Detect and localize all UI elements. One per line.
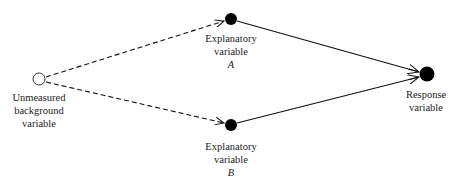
- label-line: variable: [205, 153, 256, 166]
- label-line: background: [12, 104, 65, 117]
- label-explanatory-b: Explanatory variable B: [205, 140, 256, 179]
- label-unmeasured: Unmeasured background variable: [12, 91, 65, 130]
- label-variable-letter: B: [228, 167, 234, 178]
- label-line: Response: [406, 88, 446, 101]
- label-line: Explanatory: [205, 32, 256, 45]
- label-line: variable: [12, 117, 65, 130]
- edge-unmeasured-to-b: [46, 82, 224, 123]
- edge-b-to-response: [237, 77, 419, 123]
- node-explanatory-a: [225, 13, 237, 25]
- label-response: Response variable: [406, 88, 446, 114]
- edge-unmeasured-to-a: [46, 21, 224, 77]
- label-line: Explanatory: [205, 140, 256, 153]
- label-line: variable: [406, 101, 446, 114]
- causal-diagram: Unmeasured background variable Explanato…: [0, 0, 459, 193]
- edge-a-to-response: [237, 21, 419, 72]
- node-explanatory-b: [225, 119, 237, 131]
- node-response: [420, 67, 435, 82]
- label-line: Unmeasured: [12, 91, 65, 104]
- label-line: variable: [205, 45, 256, 58]
- node-unmeasured: [33, 73, 45, 85]
- label-explanatory-a: Explanatory variable A: [205, 32, 256, 71]
- label-variable-letter: A: [228, 59, 234, 70]
